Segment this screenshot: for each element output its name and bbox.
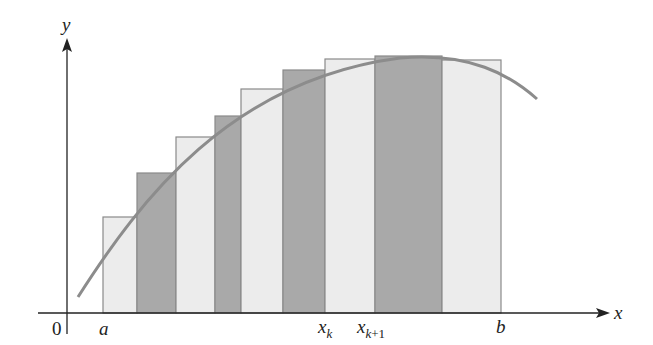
riemann-sum-diagram: y x 0 a xk xk+1 b: [0, 0, 653, 345]
riemann-rectangle-2: [137, 173, 176, 313]
y-axis-label: y: [60, 14, 71, 35]
origin-label: 0: [52, 318, 62, 339]
tick-label-xk: xk: [317, 316, 332, 341]
tick-label-a: a: [99, 318, 109, 339]
riemann-rectangle-9: [442, 60, 501, 313]
riemann-rectangle-8: [375, 56, 442, 313]
riemann-rectangle-4: [215, 116, 241, 313]
x-axis-label: x: [613, 302, 623, 323]
tick-label-xk1: xk+1: [356, 316, 385, 341]
riemann-rectangle-7: [325, 59, 375, 313]
riemann-rectangle-6: [283, 70, 325, 313]
riemann-rectangle-5: [241, 89, 283, 313]
riemann-rectangle-1: [103, 217, 137, 313]
tick-label-b: b: [496, 316, 506, 337]
